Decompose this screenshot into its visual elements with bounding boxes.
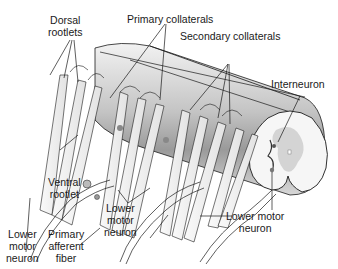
- label-lower-motor-neuron-center: Lower motor neuron: [104, 202, 137, 238]
- label-primary-collaterals: Primary collaterals: [127, 13, 213, 25]
- label-interneuron: Interneuron: [271, 78, 325, 90]
- label-primary-afferent-fiber: Primary afferent fiber: [48, 228, 84, 264]
- label-dorsal-rootlets: Dorsal rootlets: [48, 14, 82, 38]
- label-lower-motor-neuron-right: Lower motor neuron: [226, 210, 284, 234]
- label-ventral-rootlet: Ventral rootlet: [48, 176, 81, 200]
- label-lower-motor-neuron-left: Lower motor neuron: [6, 228, 39, 264]
- label-secondary-collaterals: Secondary collaterals: [180, 30, 280, 42]
